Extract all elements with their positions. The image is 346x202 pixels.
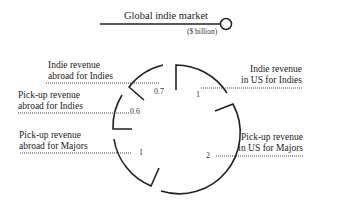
diagram-unit: ($ billion)	[187, 27, 217, 36]
segment-arc-pickup-us-majors	[161, 104, 240, 194]
value-indie-abroad: 0.7	[154, 87, 164, 96]
value-pickup-abroad-indies: 0.6	[130, 107, 140, 116]
value-pickup-us-majors: 2	[206, 151, 210, 160]
label-line2: abroad for Indies	[48, 71, 113, 82]
segment-arc-indie-us	[176, 65, 227, 93]
segment-arc-pickup-abroad-majors	[114, 139, 159, 186]
label-line2: abroad for Majors	[19, 141, 88, 152]
label-pickup-abroad-indies: Pick-up revenue abroad for Indies	[18, 90, 83, 112]
label-line1: Pick-up revenue	[238, 132, 303, 143]
label-line2: in US for Majors	[238, 143, 303, 154]
label-line1: Pick-up revenue	[18, 90, 83, 101]
label-indie-us: Indie revenue in US for Indies	[241, 64, 302, 86]
label-pickup-us-majors: Pick-up revenue in US for Majors	[238, 132, 303, 154]
value-pickup-abroad-majors: 1	[139, 148, 143, 157]
label-line1: Indie revenue	[48, 60, 113, 71]
label-line2: in US for Indies	[241, 75, 302, 86]
label-pickup-abroad-majors: Pick-up revenue abroad for Majors	[19, 130, 88, 152]
value-indie-us: 1	[196, 90, 200, 99]
label-line1: Pick-up revenue	[19, 130, 88, 141]
label-indie-abroad: Indie revenue abroad for Indies	[48, 60, 113, 82]
label-line2: abroad for Indies	[18, 101, 83, 112]
diagram-title: Global indie market	[124, 10, 208, 21]
label-line1: Indie revenue	[241, 64, 302, 75]
title-end-circle	[221, 19, 232, 30]
